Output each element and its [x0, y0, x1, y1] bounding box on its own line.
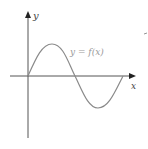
- curve-label: y = f(x): [69, 47, 104, 57]
- x-axis-arrow-icon: [129, 73, 136, 79]
- graph-svg: y x y = f(x): [0, 0, 148, 149]
- function-graph-diagram: y x y = f(x): [0, 0, 148, 149]
- y-axis-arrow-icon: [25, 11, 31, 18]
- y-axis-label: y: [32, 10, 39, 21]
- stray-mark: [144, 33, 147, 34]
- x-axis-label: x: [131, 81, 136, 91]
